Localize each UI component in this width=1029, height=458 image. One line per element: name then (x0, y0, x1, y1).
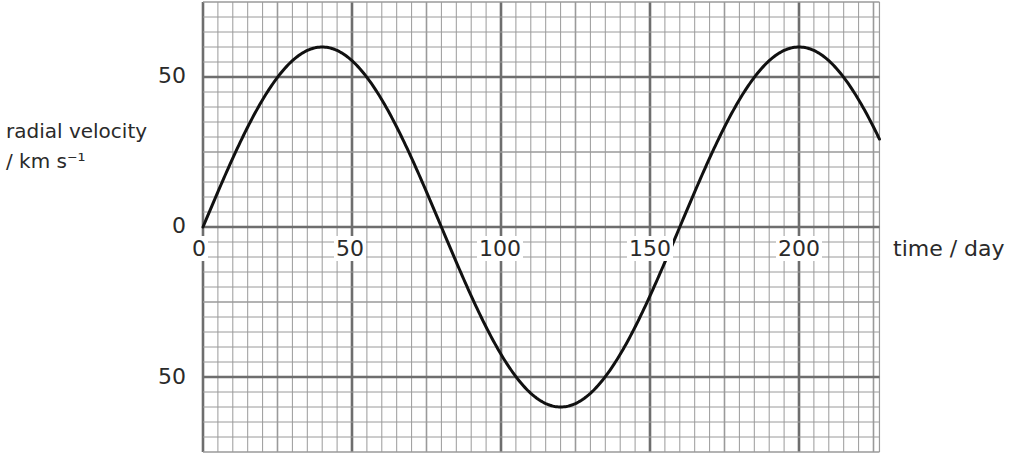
x-tick-150: 150 (627, 236, 673, 261)
chart-plot-area (0, 0, 1029, 458)
y-tick-minus-50: 50 (158, 364, 186, 389)
y-tick-50: 50 (158, 63, 186, 88)
y-axis-label-line2: / km s⁻¹ (6, 146, 147, 176)
x-axis-label: time / day (893, 236, 1005, 261)
y-axis-label: radial velocity / km s⁻¹ (6, 116, 147, 176)
y-tick-0: 0 (172, 213, 186, 238)
x-tick-50: 50 (334, 236, 366, 261)
x-tick-100: 100 (477, 236, 523, 261)
grid-lines (203, 2, 879, 452)
x-tick-200: 200 (776, 236, 822, 261)
x-tick-0: 0 (190, 236, 208, 261)
y-axis-label-line1: radial velocity (6, 116, 147, 146)
